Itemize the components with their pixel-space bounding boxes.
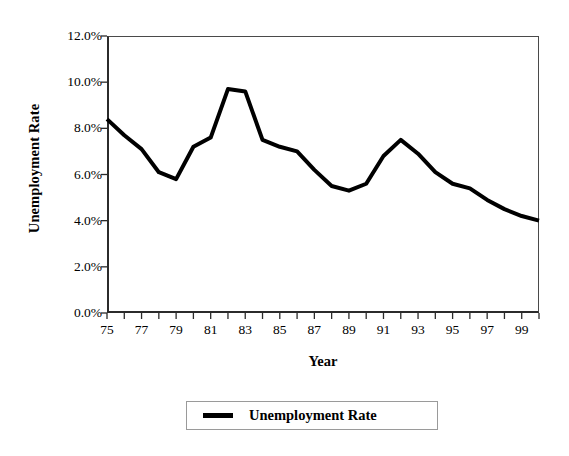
x-axis-tick-marks [107, 313, 539, 319]
y-axis-tick-label: 4.0% [36, 213, 102, 229]
y-axis-tick-label: 12.0% [36, 28, 102, 44]
chart-legend: Unemployment Rate [186, 401, 438, 430]
x-axis-tick-label: 99 [502, 322, 542, 338]
y-axis-tick-label: 0.0% [36, 305, 102, 321]
y-axis-tick-label-group: 0.0%2.0%4.0%6.0%8.0%10.0%12.0% [36, 28, 102, 321]
data-series-group [107, 89, 539, 221]
y-axis-tick-label: 10.0% [36, 74, 102, 90]
y-axis-tick-label: 6.0% [36, 167, 102, 183]
x-axis-title: Year [107, 353, 539, 370]
legend-entry-label: Unemployment Rate [249, 407, 377, 424]
data-series-line [107, 89, 539, 221]
plot-canvas [107, 36, 539, 313]
unemployment-rate-line-chart: Unemployment Rate 0.0%2.0%4.0%6.0%8.0%10… [0, 0, 569, 456]
legend-line-swatch [203, 413, 233, 418]
x-axis-tick-label-group: 75777981838587899193959799 [107, 322, 539, 344]
y-axis-tick-label: 2.0% [36, 259, 102, 275]
legend-swatch-container [187, 413, 249, 418]
y-axis-tick-label: 8.0% [36, 120, 102, 136]
